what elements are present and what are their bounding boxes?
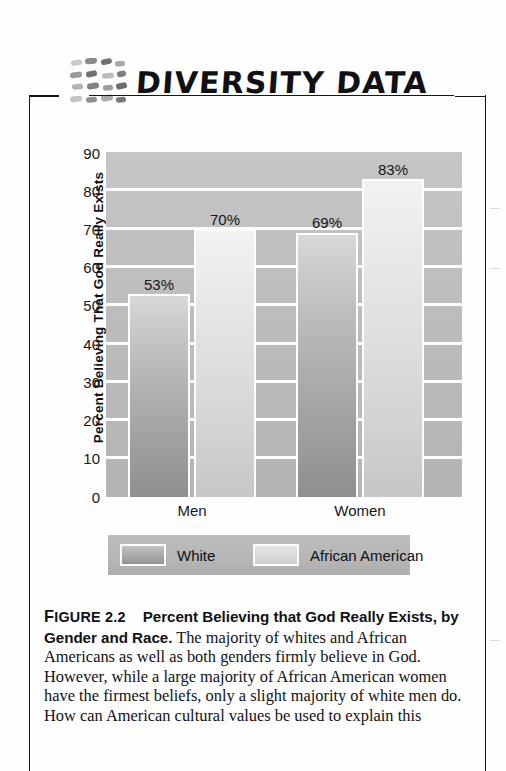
legend-swatch-african-american — [253, 544, 299, 566]
bar-label-men-african-american: 70% — [194, 212, 256, 227]
bar-women-white — [296, 233, 358, 498]
x-tick-men: Men — [177, 502, 206, 519]
figure-caption: FIGURE 2.2 Percent Believing that God Re… — [44, 607, 464, 726]
legend-label-african-american: African American — [310, 547, 423, 564]
bar-men-african-american — [194, 229, 256, 497]
figure-number-initial: F — [44, 607, 54, 625]
margin-artifact — [490, 640, 500, 641]
bar-chart: Percent Believing That God Really Exists… — [40, 140, 480, 530]
y-tick-60: 60 — [66, 260, 100, 275]
y-tick-0: 0 — [66, 490, 100, 505]
bar-men-white — [128, 294, 190, 497]
y-tick-10: 10 — [66, 451, 100, 466]
figure-number-rest: IGURE 2.2 — [54, 609, 125, 625]
y-tick-30: 30 — [66, 375, 100, 390]
legend-swatch-white — [120, 544, 166, 566]
margin-artifact — [490, 208, 500, 209]
legend-entry-white: White — [120, 544, 215, 566]
plot-area: 53% 70% 69% 83% — [106, 152, 462, 497]
legend-label-white: White — [177, 547, 215, 564]
bar-label-women-white: 69% — [296, 215, 358, 230]
figure-page: DIVERSITY DATA Percent Believing That Go… — [0, 0, 506, 771]
bar-women-african-american — [362, 179, 424, 497]
legend-entry-african-american: African American — [253, 544, 423, 566]
y-tick-90: 90 — [66, 146, 100, 161]
figure-number: FIGURE 2.2 — [44, 609, 126, 625]
bar-label-women-african-american: 83% — [362, 162, 424, 177]
y-tick-20: 20 — [66, 413, 100, 428]
x-tick-women: Women — [334, 502, 385, 519]
y-axis-ticks: 0 10 20 30 40 50 60 70 80 90 — [66, 140, 100, 530]
y-tick-50: 50 — [66, 298, 100, 313]
y-tick-70: 70 — [66, 222, 100, 237]
y-tick-80: 80 — [66, 184, 100, 199]
y-tick-40: 40 — [66, 337, 100, 352]
bar-label-men-white: 53% — [128, 277, 190, 292]
x-axis-ticks: Men Women — [106, 502, 462, 526]
margin-artifact — [490, 268, 500, 269]
chart-legend: White African American — [108, 535, 410, 575]
